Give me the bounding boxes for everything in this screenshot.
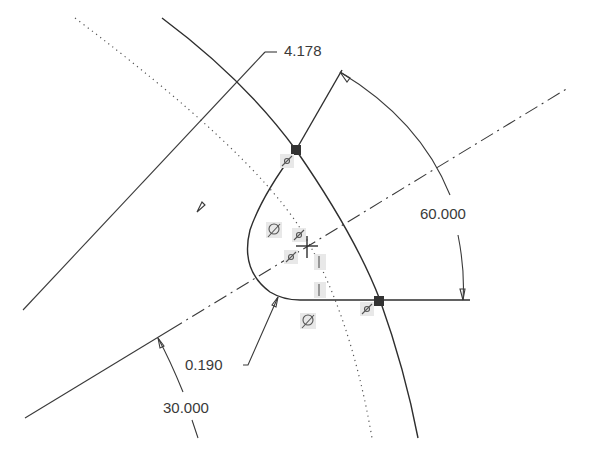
arrow-head-icon: [197, 202, 205, 212]
tangent-icon[interactable]: [266, 222, 282, 238]
vertical-icon[interactable]: [314, 254, 326, 270]
tangent-icon[interactable]: [300, 313, 316, 329]
centerline[interactable]: [170, 88, 568, 330]
coincident-icon[interactable]: [284, 250, 298, 264]
coincident-icon[interactable]: [360, 302, 374, 316]
reference-line-30[interactable]: [25, 330, 170, 418]
arrow-head-icon: [340, 72, 350, 82]
arrow-head-icon: [460, 289, 465, 300]
dimension-angle-60[interactable]: 60.000: [420, 205, 466, 222]
dimension-angle-30[interactable]: 30.000: [163, 399, 209, 416]
dimension-radius-outer[interactable]: 4.178: [284, 42, 322, 59]
sketch-canvas[interactable]: 4.178 60.000 0.190 30.000: [0, 0, 601, 460]
angle-30-arc[interactable]: [158, 338, 183, 392]
angle-30-arc-tail: [192, 420, 198, 438]
coincident-icon[interactable]: [292, 228, 306, 242]
fillet-leader[interactable]: [243, 297, 278, 365]
outer-arc[interactable]: [162, 18, 418, 438]
angle-60-arc[interactable]: [340, 72, 463, 300]
intersection-point-top[interactable]: [291, 145, 301, 155]
dimension-fillet-radius[interactable]: 0.190: [185, 356, 223, 373]
vertical-icon[interactable]: [314, 282, 326, 298]
coincident-icon[interactable]: [280, 154, 294, 168]
radial-line[interactable]: [296, 70, 342, 150]
arrow-head-icon: [272, 297, 278, 307]
radius-leader-line[interactable]: [23, 52, 265, 310]
intersection-point-right[interactable]: [374, 296, 384, 306]
construction-arc[interactable]: [75, 18, 372, 438]
